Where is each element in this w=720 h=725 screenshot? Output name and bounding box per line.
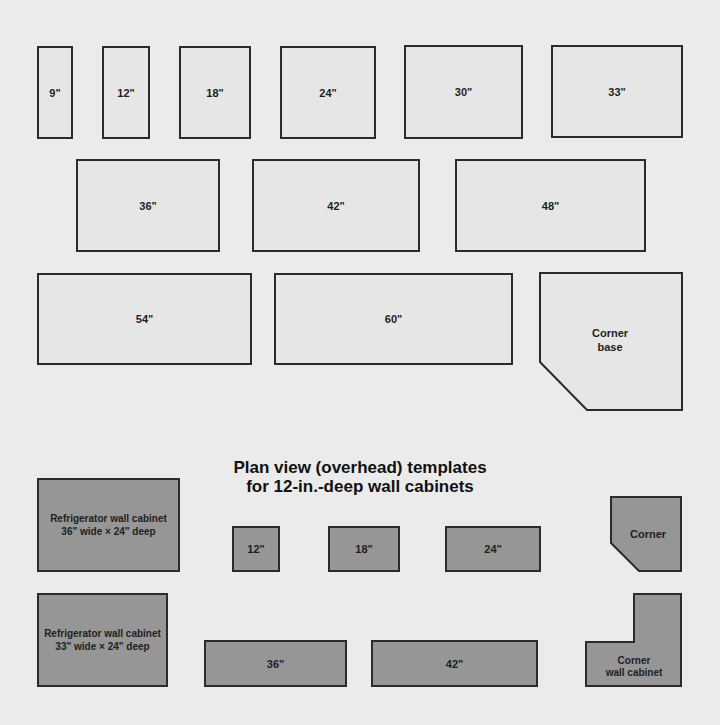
corner-wall-cabinet-label: Corner wall cabinet [588,655,680,679]
corner-wall-cabinet-shape [0,0,720,725]
